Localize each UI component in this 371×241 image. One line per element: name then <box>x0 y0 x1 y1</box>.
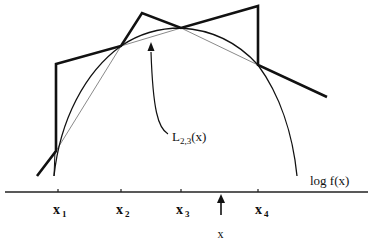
lower-hull-chords <box>56 28 258 151</box>
tick-label-x2: x2 <box>116 202 130 219</box>
tick-label-x1-sub: 1 <box>62 209 67 219</box>
chord-annotation-label: L2,3(x) <box>172 129 206 146</box>
tick-label-x4-main: x <box>255 202 262 217</box>
tick-label-x4: x4 <box>255 202 269 219</box>
tick-label-x1: x1 <box>53 202 67 219</box>
chord-label-suffix: (x) <box>191 129 206 144</box>
log-density-label: log f(x) <box>310 173 349 188</box>
tick-label-x4-sub: 4 <box>264 209 269 219</box>
tick-label-x3-main: x <box>176 202 183 217</box>
query-point-label: x <box>218 227 224 241</box>
tick-label-x2-main: x <box>116 202 123 217</box>
query-point-arrow <box>217 194 225 215</box>
tick-label-x1-main: x <box>53 202 60 217</box>
tick-label-x3-sub: 3 <box>185 209 190 219</box>
chord-label-main: L <box>172 129 180 144</box>
tick-label-x3: x3 <box>176 202 190 219</box>
log-density-curve <box>54 28 297 176</box>
arrow-up-icon <box>217 194 225 203</box>
tick-label-x2-sub: 2 <box>125 209 130 219</box>
arrow-up-icon <box>148 42 155 51</box>
chord-annotation-arrow <box>151 52 168 134</box>
chord-label-sub: 2,3 <box>180 136 192 146</box>
adaptive-rejection-sampling-diagram: x1 x2 x3 x4 x L2,3(x) log f(x) <box>0 0 371 241</box>
